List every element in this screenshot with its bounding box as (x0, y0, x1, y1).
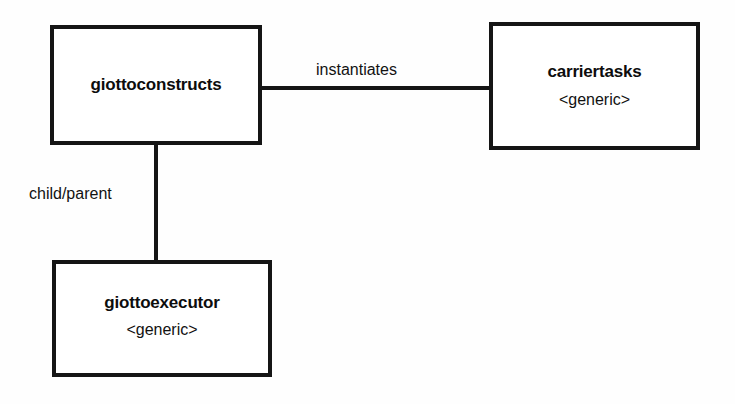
node-title: carriertasks (547, 62, 641, 82)
node-stereotype: <generic> (559, 91, 630, 109)
node-title: giottoconstructs (91, 75, 222, 95)
edge-child-parent (154, 143, 158, 263)
node-carriertasks[interactable]: carriertasks <generic> (489, 22, 700, 150)
edge-instantiates (260, 86, 491, 90)
node-giottoconstructs[interactable]: giottoconstructs (50, 25, 262, 145)
edge-label-child-parent: child/parent (29, 185, 112, 203)
node-giottoexecutor[interactable]: giottoexecutor <generic> (52, 260, 272, 377)
node-stereotype: <generic> (126, 321, 197, 339)
diagram-canvas: giottoconstructs carriertasks <generic> … (0, 0, 735, 404)
node-title: giottoexecutor (104, 293, 219, 313)
edge-label-instantiates: instantiates (316, 61, 397, 79)
